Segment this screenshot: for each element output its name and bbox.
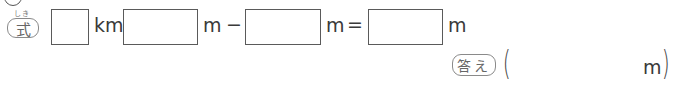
answer-unit: m xyxy=(643,56,662,78)
equals-operator: = xyxy=(347,13,363,35)
answer-input[interactable] xyxy=(515,54,635,78)
m-input-box-1[interactable] xyxy=(123,9,198,45)
answer-label: 答え xyxy=(452,54,496,76)
unit-m-2: m xyxy=(326,14,345,36)
result-input-box[interactable] xyxy=(368,9,443,45)
m-input-box-2[interactable] xyxy=(245,9,321,45)
formula-ruby: しき xyxy=(14,8,30,18)
answer-close-paren: ) xyxy=(662,43,670,83)
answer-open-paren: ( xyxy=(503,43,511,83)
minus-operator: − xyxy=(226,13,242,35)
problem-number-circle xyxy=(4,0,22,6)
unit-km: km xyxy=(94,14,124,36)
km-input-box[interactable] xyxy=(51,9,89,45)
unit-m-1: m xyxy=(203,14,222,36)
unit-m-3: m xyxy=(448,14,467,36)
formula-label: 式 xyxy=(7,18,39,38)
